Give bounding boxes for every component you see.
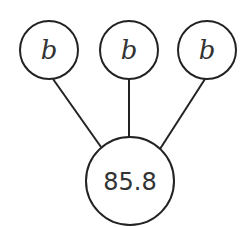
edge-left bbox=[53, 79, 101, 147]
root-node-label: 85.8 bbox=[103, 168, 156, 196]
edge-right bbox=[160, 79, 205, 149]
tree-diagram: b b b 85.8 bbox=[0, 0, 250, 227]
diagram-canvas: b b b 85.8 bbox=[0, 0, 250, 227]
child-node-2-label: b bbox=[121, 35, 138, 65]
child-node-1-label: b bbox=[41, 35, 58, 65]
child-node-3-label: b bbox=[199, 35, 216, 65]
